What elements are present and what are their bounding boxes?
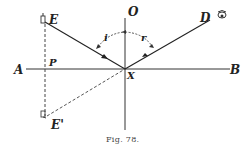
label-p: P bbox=[49, 58, 57, 68]
label-e-prime: E' bbox=[51, 119, 64, 131]
label-a: A bbox=[14, 64, 23, 76]
reflected-ray bbox=[125, 20, 210, 69]
figure-caption: Fig. 78. bbox=[106, 135, 139, 144]
label-x: X bbox=[127, 71, 135, 81]
arc-mid-arrow-icon bbox=[122, 30, 126, 34]
label-e: E bbox=[49, 14, 58, 26]
incident-ray bbox=[45, 22, 125, 69]
figure-78: E O D A B P X E' i r Fig. 78. bbox=[0, 0, 242, 146]
arc-r-arrow-icon bbox=[149, 44, 154, 48]
label-angle-r: r bbox=[141, 33, 146, 43]
label-d: D bbox=[200, 12, 210, 24]
candle-icon bbox=[41, 13, 45, 23]
incident-arrow-icon bbox=[101, 54, 108, 59]
label-b: B bbox=[230, 64, 240, 76]
candle-image-icon bbox=[41, 111, 46, 118]
label-o: O bbox=[128, 6, 138, 18]
arc-i-arrow-icon bbox=[96, 44, 101, 49]
dashed-image-ray bbox=[47, 69, 125, 116]
arc-i bbox=[98, 32, 125, 47]
arc-r bbox=[125, 32, 152, 46]
label-angle-i: i bbox=[104, 33, 108, 43]
eye-icon bbox=[218, 11, 226, 19]
